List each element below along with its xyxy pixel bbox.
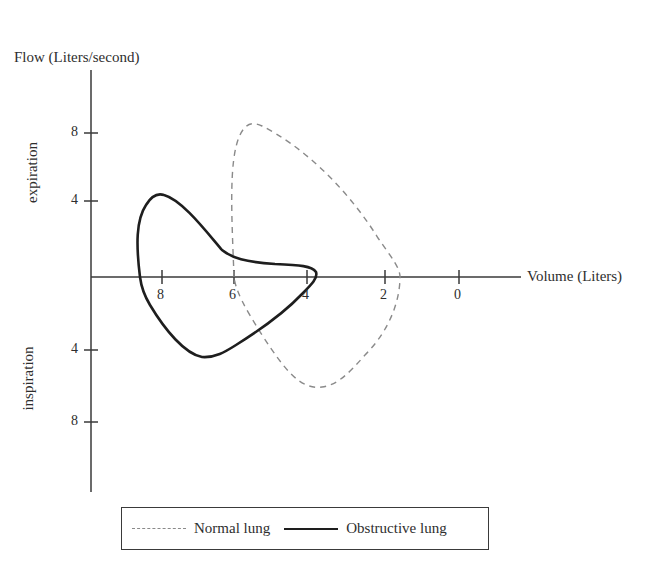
x-axis-title: Volume (Liters) bbox=[527, 268, 622, 285]
y-axis-title: Flow (Liters/second) bbox=[14, 49, 139, 66]
legend-label-normal: Normal lung bbox=[194, 520, 270, 537]
y-tick-upper-4: 4 bbox=[71, 192, 78, 208]
dashed-line-swatch-icon bbox=[132, 528, 186, 529]
expiration-label: expiration bbox=[24, 133, 41, 213]
legend: Normal lung Obstructive lung bbox=[121, 507, 489, 550]
x-tick-2: 2 bbox=[380, 287, 387, 303]
legend-item-normal: Normal lung bbox=[132, 520, 270, 537]
legend-item-obstructive: Obstructive lung bbox=[284, 520, 446, 537]
legend-label-obstructive: Obstructive lung bbox=[346, 520, 446, 537]
x-tick-8: 8 bbox=[157, 287, 164, 303]
y-tick-lower-8: 8 bbox=[71, 413, 78, 429]
y-tick-upper-8: 8 bbox=[71, 124, 78, 140]
x-tick-4: 4 bbox=[302, 287, 309, 303]
obstructive-lung-curve bbox=[138, 194, 317, 357]
x-tick-0: 0 bbox=[454, 287, 461, 303]
inspiration-label: inspiration bbox=[20, 337, 37, 421]
flow-volume-plot bbox=[0, 0, 668, 585]
y-tick-lower-4: 4 bbox=[71, 341, 78, 357]
normal-lung-curve bbox=[232, 124, 400, 388]
solid-line-swatch-icon bbox=[284, 528, 338, 530]
x-tick-6: 6 bbox=[229, 287, 236, 303]
